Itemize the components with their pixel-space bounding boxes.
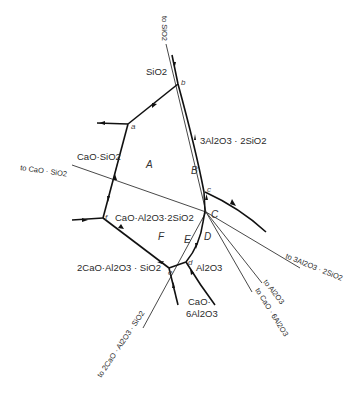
label-to-gehlenite: to 2CaO · Al2O3 · SiO2 — [95, 309, 146, 379]
field-label-alumina: Al2O3 — [196, 262, 222, 273]
point-e: e — [168, 268, 173, 277]
arrow-icon — [194, 134, 196, 140]
boundary-f-e — [103, 218, 169, 268]
region-B: B — [191, 165, 198, 176]
arrow-icon — [118, 224, 124, 229]
boundary-a-f — [103, 124, 128, 218]
region-A: A — [145, 159, 153, 170]
arrow-icon — [205, 194, 208, 200]
point-d: d — [188, 258, 193, 267]
field-label-wollastonite: CaO·SiO2 — [77, 151, 121, 162]
point-b: b — [181, 78, 186, 87]
field-label-cao6al2o3-line1: CaO· — [188, 296, 211, 307]
boundary-C-D — [203, 211, 205, 222]
boundary-f-left — [72, 218, 103, 220]
tie-line-to-sio2 — [166, 44, 206, 212]
label-to-mullite: to 3Al2O3 · 2SiO2 — [284, 252, 344, 283]
field-label-anorthite: CaO·Al2O3·2SiO2 — [115, 212, 194, 223]
field-label-mullite: 3Al2O3 · 2SiO2 — [200, 135, 267, 146]
field-label-gehlenite: 2CaO·Al2O3 · SiO2 — [77, 262, 161, 273]
arrow-icon — [99, 121, 105, 125]
label-to-sio2: to SiO2 — [160, 16, 169, 41]
point-c: c — [207, 185, 211, 194]
tie-line-to-caosio2 — [72, 165, 206, 212]
field-label-cao6al2o3-line2: 6Al2O3 — [186, 308, 218, 319]
region-F: F — [158, 231, 165, 242]
label-to-caosio2: to CaO · SiO2 — [20, 163, 68, 178]
point-a: a — [131, 122, 136, 131]
region-E: E — [184, 234, 191, 245]
tie-line-to-cao6al2o3 — [206, 212, 252, 292]
field-label-sio2: SiO2 — [146, 66, 167, 77]
region-C: C — [211, 209, 219, 220]
region-D: D — [204, 231, 211, 242]
arrow-icon — [152, 103, 157, 108]
phase-diagram: SiO2 3Al2O3 · 2SiO2 CaO·SiO2 CaO·Al2O3·2… — [0, 0, 360, 403]
